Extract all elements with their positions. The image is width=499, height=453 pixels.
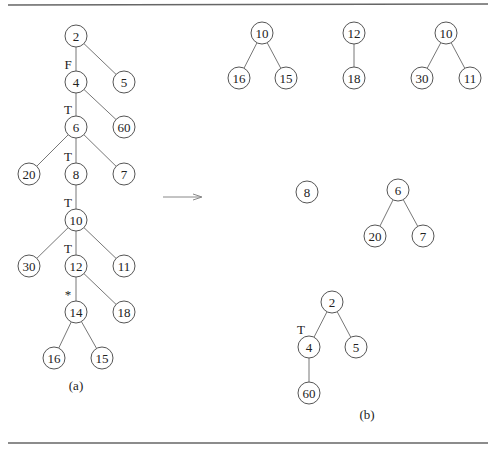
tree-node-10: 10 — [251, 22, 273, 44]
node-label: 18 — [348, 71, 361, 86]
node-label: 2 — [329, 295, 336, 310]
node-label: 12 — [70, 259, 83, 274]
node-mark: T — [64, 102, 72, 117]
node-mark: T — [64, 195, 72, 210]
tree-edge — [337, 312, 351, 338]
node-label: 18 — [118, 305, 131, 320]
tree-node-20: 20 — [18, 163, 40, 185]
tree-node-10: 10 — [435, 22, 457, 44]
tree-edge — [84, 274, 116, 305]
node-label: 8 — [73, 167, 80, 182]
node-label: 4 — [306, 340, 313, 355]
tree-node-5: 5 — [113, 71, 135, 93]
edges-layer — [37, 43, 465, 382]
tree-node-15: 15 — [275, 67, 297, 89]
node-label: 14 — [70, 305, 84, 320]
node-label: 10 — [70, 213, 83, 228]
tree-node-60: 60 — [298, 382, 320, 404]
tree-node-2: 2 — [321, 291, 343, 313]
node-label: 2 — [73, 29, 80, 44]
node-label: 60 — [303, 386, 316, 401]
tree-edge — [380, 200, 393, 226]
tree-edge — [267, 43, 281, 69]
tree-node-7: 7 — [113, 163, 135, 185]
tree-edge — [244, 43, 257, 68]
node-label: 15 — [96, 351, 109, 366]
node-label: 15 — [280, 71, 293, 86]
node-mark: T — [297, 322, 305, 337]
tree-edge — [84, 90, 116, 120]
node-label: 16 — [233, 71, 247, 86]
tree-node-18: 18 — [343, 67, 365, 89]
node-mark: * — [65, 287, 72, 302]
node-label: 6 — [395, 183, 402, 198]
nodes-layer: 254F606T208T710T3012T1114*18161510161512… — [18, 22, 481, 404]
tree-node-30: 30 — [18, 255, 40, 277]
tree-diagram: 254F606T208T710T3012T1114*18161510161512… — [0, 0, 499, 453]
node-label: 30 — [23, 259, 36, 274]
tree-node-12: 12 — [343, 22, 365, 44]
tree-edge — [84, 44, 116, 75]
node-mark: F — [64, 57, 71, 72]
tree-node-4: 4T — [297, 322, 320, 358]
tree-node-15: 15 — [91, 347, 113, 369]
node-label: 5 — [353, 340, 360, 355]
tree-node-11: 11 — [459, 67, 481, 89]
node-label: 11 — [118, 259, 131, 274]
tree-node-20: 20 — [364, 225, 386, 247]
tree-node-18: 18 — [113, 301, 135, 323]
node-label: 4 — [73, 75, 80, 90]
node-label: 12 — [348, 26, 361, 41]
tree-node-8: 8 — [296, 181, 318, 203]
node-label: 16 — [48, 351, 62, 366]
tree-edge — [59, 322, 72, 348]
tree-node-2: 2 — [65, 25, 87, 47]
tree-edge — [427, 43, 441, 69]
tree-node-6: 6 — [387, 179, 409, 201]
tree-node-16: 16 — [228, 67, 250, 89]
node-label: 30 — [416, 71, 429, 86]
tree-node-16: 16 — [43, 347, 65, 369]
tree-node-11: 11 — [113, 255, 135, 277]
caption-b: (b) — [359, 407, 374, 422]
tree-edge — [84, 135, 116, 167]
tree-edge — [403, 200, 417, 227]
node-label: 20 — [23, 167, 36, 182]
caption-a: (a) — [69, 378, 83, 393]
node-mark: T — [64, 241, 72, 256]
tree-edge — [451, 43, 465, 69]
tree-edge — [314, 312, 327, 337]
node-label: 5 — [121, 75, 128, 90]
node-label: 20 — [369, 229, 382, 244]
tree-node-30: 30 — [411, 67, 433, 89]
node-mark: T — [64, 149, 72, 164]
node-label: 8 — [304, 185, 311, 200]
top-rule — [8, 4, 488, 5]
node-label: 11 — [464, 71, 477, 86]
node-label: 10 — [256, 26, 269, 41]
tree-edge — [84, 228, 116, 259]
node-label: 60 — [118, 120, 131, 135]
node-label: 7 — [420, 229, 427, 244]
node-label: 6 — [73, 120, 80, 135]
transform-arrow — [163, 194, 202, 200]
tree-node-5: 5 — [345, 336, 367, 358]
tree-node-60: 60 — [113, 116, 135, 138]
node-label: 10 — [440, 26, 453, 41]
tree-edge — [81, 322, 96, 349]
tree-node-7: 7 — [412, 225, 434, 247]
node-label: 7 — [121, 167, 128, 182]
